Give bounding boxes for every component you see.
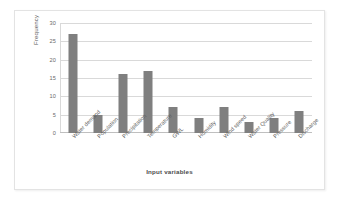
y-tick-label: 25: [50, 38, 56, 44]
bar-slot: [287, 23, 312, 133]
figure: Frequency 051015202530 Water demandPopul…: [0, 0, 341, 207]
bar-slot: [186, 23, 211, 133]
y-tick-label: 10: [50, 93, 56, 99]
y-tick-label: 15: [50, 75, 56, 81]
bar[interactable]: [144, 71, 153, 133]
bar[interactable]: [68, 34, 77, 133]
bar-slot: [211, 23, 236, 133]
plot-area: 051015202530 Water demandPopulationPreci…: [60, 23, 312, 133]
bar-slot: [60, 23, 85, 133]
y-tick-label: 0: [53, 130, 56, 136]
bar[interactable]: [118, 74, 127, 133]
y-tick-label: 30: [50, 20, 56, 26]
x-axis-title: Input variables: [15, 168, 324, 175]
chart-frame: Frequency 051015202530 Water demandPopul…: [14, 10, 325, 190]
y-tick-label: 5: [53, 112, 56, 118]
y-tick-label: 20: [50, 57, 56, 63]
y-axis-title: Frequency: [33, 15, 39, 45]
